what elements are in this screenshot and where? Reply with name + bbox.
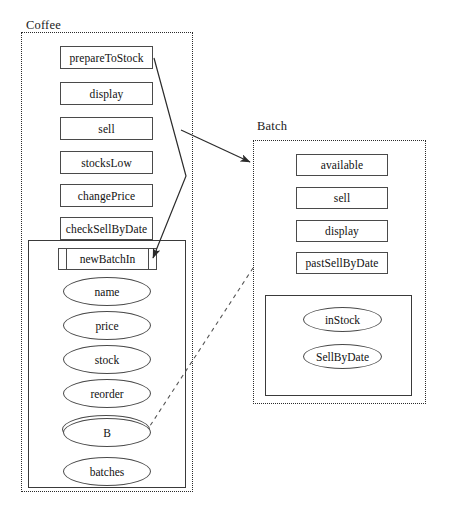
compartment-left-edge [59, 249, 67, 269]
method-box-batch-display[interactable]: display [296, 220, 388, 242]
attribute-ellipse-batches[interactable]: batches [63, 457, 151, 486]
method-box-check-sell-by-date[interactable]: checkSellByDate [60, 217, 153, 240]
method-box-available[interactable]: available [296, 154, 388, 176]
attribute-ellipse-stock[interactable]: stock [63, 345, 151, 374]
attribute-ellipse-name[interactable]: name [63, 277, 151, 306]
method-box-sell[interactable]: sell [60, 117, 153, 140]
method-box-change-price[interactable]: changePrice [60, 184, 153, 207]
uml-class-diagram: Coffee prepareToStock display sell stock… [0, 0, 450, 514]
compartment-box-new-batch-in[interactable]: newBatchIn [58, 248, 157, 270]
compartment-right-edge [148, 249, 156, 269]
method-box-prepare-to-stock[interactable]: prepareToStock [60, 46, 153, 69]
package-label-coffee: Coffee [26, 18, 61, 33]
attribute-ellipse-b[interactable]: B [63, 418, 151, 447]
method-box-display[interactable]: display [60, 82, 153, 105]
attribute-ellipse-sell-by-date[interactable]: SellByDate [303, 344, 382, 369]
method-box-stocks-low[interactable]: stocksLow [60, 151, 153, 174]
method-box-batch-sell[interactable]: sell [296, 187, 388, 209]
method-box-past-sell-by-date[interactable]: pastSellByDate [296, 252, 388, 274]
attribute-ellipse-reorder[interactable]: reorder [63, 379, 151, 408]
attribute-ellipse-in-stock[interactable]: inStock [303, 307, 382, 332]
package-label-batch: Batch [257, 119, 287, 134]
compartment-label-new-batch-in: newBatchIn [67, 249, 148, 269]
attribute-ellipse-price[interactable]: price [63, 311, 151, 340]
